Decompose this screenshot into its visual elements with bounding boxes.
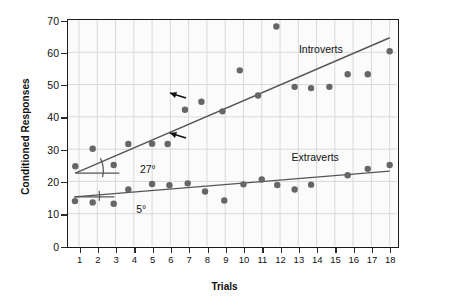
grid-lines (68, 20, 397, 246)
data-point (110, 201, 116, 207)
x-tick-mark (281, 248, 282, 253)
data-point (164, 141, 170, 147)
data-point (149, 181, 155, 187)
data-point (274, 182, 280, 188)
data-point (89, 199, 95, 205)
angle-label-extraverts: 5° (136, 203, 146, 215)
data-point (344, 172, 350, 178)
y-tick-label: 20 (35, 176, 59, 188)
x-axis-title: Trials (0, 281, 449, 292)
data-point (291, 186, 297, 192)
data-point (219, 108, 225, 114)
angle-arc (99, 191, 100, 201)
x-tick-label: 10 (239, 254, 250, 265)
angle-arrowhead (170, 132, 177, 138)
data-point (149, 140, 155, 146)
x-tick-mark (226, 248, 227, 253)
data-point (72, 163, 78, 169)
data-point (259, 176, 265, 182)
x-tick-mark (80, 248, 81, 253)
x-tick-label: 12 (275, 254, 286, 265)
x-tick-label: 15 (330, 254, 341, 265)
data-point (202, 188, 208, 194)
x-tick-mark (244, 248, 245, 253)
x-tick-mark (354, 248, 355, 253)
angle-arrowhead (170, 92, 177, 98)
x-tick-label: 9 (223, 254, 228, 265)
x-tick-label: 14 (312, 254, 323, 265)
x-tick-mark (189, 248, 190, 253)
x-tick-mark (116, 248, 117, 253)
x-tick-label: 6 (168, 254, 173, 265)
data-point (166, 182, 172, 188)
data-point (255, 92, 261, 98)
y-axis-title: Conditioned Responses (20, 52, 31, 222)
data-points (72, 23, 393, 207)
scatter-chart-figure: Conditioned Responses Trials 01020304050… (0, 0, 449, 302)
data-point (365, 166, 371, 172)
data-point (326, 84, 332, 90)
data-point (386, 162, 392, 168)
data-point (110, 162, 116, 168)
y-tick-label: 0 (35, 241, 59, 253)
trend-line-extraverts (74, 171, 389, 197)
data-point (308, 85, 314, 91)
plot-area (67, 19, 399, 248)
x-tick-label: 16 (348, 254, 359, 265)
data-point (125, 186, 131, 192)
data-point (198, 98, 204, 104)
y-tick-label: 50 (35, 79, 59, 91)
x-tick-mark (171, 248, 172, 253)
x-tick-mark (208, 248, 209, 253)
x-tick-label: 18 (385, 254, 396, 265)
x-tick-mark (262, 248, 263, 253)
y-tick-label: 30 (35, 144, 59, 156)
x-tick-label: 13 (294, 254, 305, 265)
data-point (89, 146, 95, 152)
data-point (125, 141, 131, 147)
data-point (308, 181, 314, 187)
data-point (386, 48, 392, 54)
data-point (344, 71, 350, 77)
x-tick-label: 4 (132, 254, 137, 265)
trend-line-introverts (75, 38, 389, 173)
angle-label-introverts: 27° (140, 163, 156, 175)
data-point (182, 107, 188, 113)
y-tick-label: 40 (35, 111, 59, 123)
y-tick-label: 10 (35, 208, 59, 220)
x-tick-label: 3 (113, 254, 118, 265)
data-point (237, 67, 243, 73)
y-tick-label: 60 (35, 47, 59, 59)
data-point (365, 71, 371, 77)
data-point (240, 181, 246, 187)
plot-canvas (68, 20, 397, 246)
x-tick-mark (372, 248, 373, 253)
x-tick-label: 8 (205, 254, 210, 265)
x-tick-mark (134, 248, 135, 253)
x-tick-mark (317, 248, 318, 253)
data-point (273, 23, 279, 29)
x-tick-label: 17 (367, 254, 378, 265)
data-point (72, 198, 78, 204)
y-tick-label: 70 (35, 15, 59, 27)
data-point (291, 84, 297, 90)
x-tick-mark (299, 248, 300, 253)
x-tick-label: 5 (150, 254, 155, 265)
data-point (221, 197, 227, 203)
data-point (185, 180, 191, 186)
x-tick-mark (98, 248, 99, 253)
series-label-introverts: Introverts (299, 43, 343, 55)
series-label-extraverts: Extraverts (292, 151, 339, 163)
x-tick-mark (390, 248, 391, 253)
x-tick-label: 11 (257, 254, 267, 265)
x-tick-mark (153, 248, 154, 253)
x-tick-mark (335, 248, 336, 253)
x-tick-label: 1 (77, 254, 82, 265)
x-tick-label: 7 (187, 254, 192, 265)
x-tick-label: 2 (95, 254, 100, 265)
